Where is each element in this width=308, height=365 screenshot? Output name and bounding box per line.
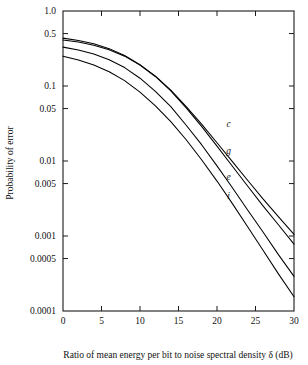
x-tick-label: 5: [99, 316, 104, 326]
curve-label-i: i: [227, 191, 230, 201]
x-axis-title: Ratio of mean energy per bit to noise sp…: [63, 350, 292, 361]
curve-label-e: e: [226, 172, 230, 182]
y-tick-label: 0.005: [35, 179, 57, 189]
x-tick-label: 20: [212, 316, 222, 326]
curve-label-g: g: [226, 146, 231, 156]
x-tick-label: 0: [61, 316, 66, 326]
y-tick-label: 0.01: [39, 156, 56, 166]
y-tick-label: 0.1: [44, 81, 56, 91]
x-tick-label: 10: [135, 316, 145, 326]
y-tick-label: 0.001: [35, 231, 57, 241]
figure-container: cgei 051015202530 1.00.50.10.050.010.005…: [0, 0, 308, 365]
probability-of-error-chart: cgei 051015202530 1.00.50.10.050.010.005…: [0, 0, 308, 365]
x-tick-label: 25: [251, 316, 261, 326]
x-tick-label: 15: [174, 316, 184, 326]
y-tick-label: 0.0001: [30, 306, 56, 316]
y-tick-label: 0.5: [44, 29, 56, 39]
y-tick-label: 0.05: [39, 104, 56, 114]
y-tick-label: 1.0: [44, 6, 56, 16]
x-tick-label: 30: [289, 316, 299, 326]
y-tick-label: 0.0005: [30, 254, 56, 264]
y-axis-title: Probability of error: [5, 125, 15, 199]
